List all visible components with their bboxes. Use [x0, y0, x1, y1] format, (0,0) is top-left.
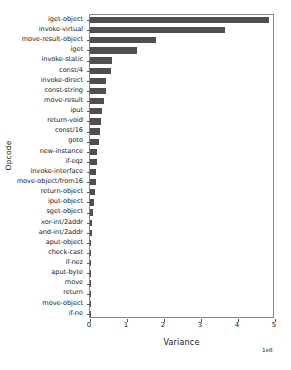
y-tick-label: iput-object [0, 198, 83, 205]
bar [90, 311, 91, 317]
y-tick-label: move-result-object [0, 36, 83, 43]
y-tick-mark [87, 273, 90, 274]
bar-row [90, 57, 273, 63]
bar-chart-figure: Opcode iget-objectinvoke-virtualmove-res… [0, 0, 291, 370]
bar-series [90, 15, 273, 317]
y-tick-mark [87, 243, 90, 244]
y-tick-label: invoke-direct [0, 77, 83, 84]
y-tick-mark [87, 253, 90, 254]
y-tick-mark [87, 182, 90, 183]
bar-row [90, 250, 273, 256]
bar-row [90, 270, 273, 276]
bar [90, 260, 91, 266]
y-tick-label: if-ne [0, 310, 83, 317]
bar-row [90, 301, 273, 307]
y-tick-mark [87, 314, 90, 315]
y-tick-mark [87, 192, 90, 193]
bar [90, 250, 91, 256]
y-tick-mark [87, 233, 90, 234]
y-tick-mark [87, 284, 90, 285]
bar [90, 88, 106, 94]
y-tick-label: move-result [0, 97, 83, 104]
y-tick-label: return [0, 289, 83, 296]
y-tick-label: check-cast [0, 249, 83, 256]
y-tick-mark [87, 101, 90, 102]
y-tick-mark [87, 294, 90, 295]
y-tick-label: const/16 [0, 127, 83, 134]
y-tick-mark [87, 111, 90, 112]
bar [90, 209, 93, 215]
x-tick-label: 4 [227, 322, 247, 329]
bar [90, 169, 96, 175]
bar [90, 301, 91, 307]
bar [90, 98, 104, 104]
y-tick-label: iget [0, 46, 83, 53]
bar-row [90, 230, 273, 236]
y-axis-title-text: Opcode [5, 140, 14, 170]
y-tick-label: return-void [0, 117, 83, 124]
bar [90, 230, 92, 236]
bar [90, 27, 225, 33]
bar-row [90, 149, 273, 155]
y-tick-mark [87, 223, 90, 224]
bar-row [90, 108, 273, 114]
bar [90, 139, 99, 145]
y-tick-mark [87, 71, 90, 72]
y-tick-label: goto [0, 137, 83, 144]
bar-row [90, 189, 273, 195]
bar-row [90, 37, 273, 43]
y-tick-mark [87, 172, 90, 173]
bar-row [90, 78, 273, 84]
bar [90, 47, 137, 53]
bar [90, 270, 91, 276]
bar [90, 118, 101, 124]
y-tick-mark [87, 91, 90, 92]
bar [90, 78, 106, 84]
x-axis-offset-text: 1e8 [262, 347, 273, 353]
bar-row [90, 118, 273, 124]
y-tick-label: sget-object [0, 208, 83, 215]
y-tick-mark [87, 152, 90, 153]
bar [90, 68, 111, 74]
y-tick-label: xor-int/2addr [0, 219, 83, 226]
y-tick-label: aput-byte [0, 269, 83, 276]
y-tick-mark [87, 61, 90, 62]
y-tick-label: new-instance [0, 148, 83, 155]
y-tick-label: if-nez [0, 259, 83, 266]
y-tick-label: iget-object [0, 16, 83, 23]
bar-row [90, 139, 273, 145]
bar-row [90, 169, 273, 175]
plot-area [89, 14, 274, 318]
bar [90, 179, 96, 185]
y-tick-mark [87, 162, 90, 163]
y-tick-mark [87, 213, 90, 214]
x-axis-title: Variance [89, 338, 274, 347]
bar-row [90, 311, 273, 317]
bar-row [90, 98, 273, 104]
bar-row [90, 128, 273, 134]
y-tick-label: invoke-static [0, 56, 83, 63]
bar [90, 108, 102, 114]
bar-row [90, 47, 273, 53]
x-tick-label: 5 [264, 322, 284, 329]
y-tick-label: move-object [0, 300, 83, 307]
bar [90, 240, 91, 246]
y-tick-mark [87, 20, 90, 21]
bar-row [90, 88, 273, 94]
y-tick-label: invoke-interface [0, 168, 83, 175]
x-tick-label: 1 [116, 322, 136, 329]
bar [90, 189, 95, 195]
y-tick-mark [87, 40, 90, 41]
bar-row [90, 17, 273, 23]
y-tick-label: return-object [0, 188, 83, 195]
x-tick-label: 2 [153, 322, 173, 329]
bar [90, 280, 91, 286]
y-tick-mark [87, 263, 90, 264]
bar [90, 199, 94, 205]
bar [90, 37, 156, 43]
y-tick-mark [87, 50, 90, 51]
bar-row [90, 240, 273, 246]
y-tick-mark [87, 142, 90, 143]
bar-row [90, 27, 273, 33]
bar-row [90, 68, 273, 74]
